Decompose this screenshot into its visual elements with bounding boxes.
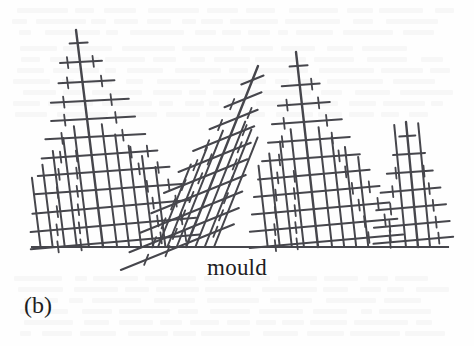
dendrite-3-branch-tick [318, 97, 319, 108]
dendrite-1-branch-tick [80, 239, 81, 250]
dendrite-1-branch-tick [122, 130, 123, 141]
dendrite-4-trunk [406, 122, 418, 247]
dendrite-1-secondary-arm [129, 146, 142, 247]
dendrite-1-branch-tick [78, 204, 79, 215]
dendrite-4-branch [381, 188, 441, 193]
dendrite-4-secondary-arm [394, 125, 406, 247]
dendrite-3-branch [278, 102, 330, 106]
dendrite-4-branch [376, 204, 446, 210]
dendrite-3-trunk [296, 52, 318, 247]
dendrite-3-branch-tick [282, 136, 283, 147]
dendrite-1-branch-tick [76, 168, 77, 179]
dendrite-3-branch-tick [326, 115, 327, 126]
dendrite-1-branch-tick [63, 97, 64, 108]
dendrite-3-branch-tick [294, 188, 295, 199]
dendrite-3-branch-tick [369, 182, 370, 193]
dendrite-3-branch-tick [352, 183, 353, 194]
dendrite-1-branch [60, 61, 102, 63]
dendrite-1-branch-tick [111, 94, 112, 105]
dendrite-1-branch-tick [185, 230, 186, 241]
dendrite-1-branch-tick [101, 76, 102, 87]
dendrite-3-branch-tick [279, 155, 280, 166]
dendrite-3-secondary-arm [345, 147, 356, 247]
dendrite-1-branch-tick [168, 179, 169, 190]
dendrite-1-branch-tick [92, 56, 93, 67]
dendrite-4-branch [399, 135, 415, 136]
dendrite-1-branch [42, 150, 158, 158]
dendrite-1-secondary-arm [53, 151, 65, 247]
dendrite-3-branch-tick [286, 100, 287, 111]
dendrite-4-branch-tick [438, 233, 439, 244]
dendrite-4-branch-tick [436, 217, 437, 228]
dendrite-1-branch-tick [58, 169, 59, 180]
dendrite-1-branch-tick [64, 115, 65, 126]
dendrite-1-branch-tick [60, 152, 61, 163]
dendrite-4-branch-tick [392, 186, 393, 197]
dendrite-1-branch-tick [56, 224, 57, 235]
dendrite-3-branch-tick [338, 150, 339, 161]
dendrite-4-branch-tick [390, 204, 391, 215]
dendrite-3-branch-tick [275, 190, 276, 201]
dendrite-1-branch-tick [147, 146, 148, 157]
dendrite-1-branch-tick [67, 77, 68, 88]
dendrite-3-branch-tick [277, 172, 278, 183]
dendrite-3 [250, 52, 403, 251]
dendrite-4 [374, 122, 454, 248]
dendrite-3-branch-tick [275, 240, 276, 251]
dendrite-3-branch-tick [384, 214, 385, 225]
dendrite-3-branch [282, 84, 320, 87]
dendrite-3-branch-tick [377, 198, 378, 209]
dendrite-1-branch-tick [79, 222, 80, 233]
dendrite-3-branch [272, 119, 342, 124]
dendrite-1-secondary-arm [115, 134, 129, 247]
mould-label: mould [0, 255, 474, 281]
dendrite-3-branch [252, 202, 389, 214]
dendrite-1-branch [70, 42, 88, 43]
panel-label: (b) [24, 292, 52, 319]
dendrite-4-branch [374, 237, 454, 244]
dendrite-3-branch-tick [345, 166, 346, 177]
dendrite-1-branch-tick [138, 163, 139, 174]
dendrite-1-branch [38, 167, 170, 176]
dendrites-group [31, 30, 454, 270]
dendrite-1-branch-tick [67, 57, 68, 68]
dendrite-3-branch-tick [311, 79, 312, 90]
dendrite-3-branch-tick [283, 118, 284, 129]
dendrite-4-branch-tick [389, 221, 390, 232]
dendrite-1-branch-tick [77, 186, 78, 197]
dendrite-1-secondary-arm [142, 156, 153, 247]
dendrite-1-secondary-arm [42, 165, 52, 247]
dendrite-1-branch-tick [152, 198, 153, 209]
dendrite-3-branch-tick [295, 205, 296, 216]
dendrite-4-branch-tick [433, 200, 434, 211]
dendrite-1-branch [45, 134, 145, 139]
dendrite-growth-diagram [0, 0, 474, 346]
dendrite-1-branch-tick [157, 162, 158, 173]
dendrite-3-branch [250, 219, 397, 232]
dendrite-3-branch [290, 65, 308, 66]
dendrite-2-trunk [186, 66, 258, 247]
figure-panel-b: mould (b) [0, 0, 474, 346]
dendrite-1-secondary-arm [102, 124, 117, 247]
dendrite-3-branch-tick [274, 224, 275, 235]
dendrite-3-branch [250, 235, 403, 248]
dendrite-3-secondary-arm [291, 129, 304, 247]
dendrite-3-secondary-arm [319, 127, 333, 247]
dendrite-1-branch-tick [115, 112, 116, 123]
dendrite-1-branch-tick [57, 206, 58, 217]
dendrite-3-branch-tick [295, 222, 296, 233]
dendrite-3-branch-tick [359, 200, 360, 211]
dendrite-4-branch-tick [429, 183, 430, 194]
dendrite-4-branch-tick [395, 168, 396, 179]
dendrite-3-branch [258, 170, 370, 180]
